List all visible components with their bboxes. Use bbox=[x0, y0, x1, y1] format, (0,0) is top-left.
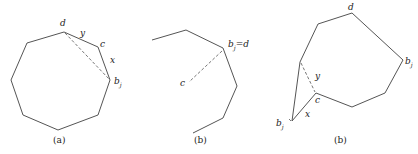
caption-b: (b) bbox=[194, 136, 207, 145]
chord-y-c bbox=[301, 63, 315, 92]
caption-a: (a) bbox=[53, 136, 65, 145]
polygon-c bbox=[292, 13, 403, 121]
label-bj-right: bj bbox=[405, 57, 413, 68]
label-x-c: x bbox=[305, 110, 310, 119]
label-bj-a: bj bbox=[114, 77, 122, 88]
label-bj-left: bj bbox=[276, 119, 284, 130]
label-c-c: c bbox=[315, 96, 320, 105]
chord-c-d-b bbox=[189, 51, 222, 82]
diagram-canvas: d y c x bj (a) bj=d c (b) d bj y c x bj … bbox=[0, 0, 418, 154]
label-x-a: x bbox=[110, 56, 115, 65]
chain-b bbox=[152, 30, 237, 133]
label-d-c: d bbox=[348, 3, 354, 12]
label-bj-eq-d: bj=d bbox=[228, 40, 249, 51]
label-c-a: c bbox=[100, 40, 105, 49]
label-c-b: c bbox=[180, 79, 185, 88]
tick-bj-c bbox=[289, 119, 291, 121]
caption-c: (b) bbox=[334, 136, 347, 145]
label-d-a: d bbox=[60, 19, 66, 28]
label-y-a: y bbox=[80, 29, 85, 38]
label-y-c: y bbox=[315, 72, 320, 81]
octagon-a bbox=[11, 32, 110, 130]
